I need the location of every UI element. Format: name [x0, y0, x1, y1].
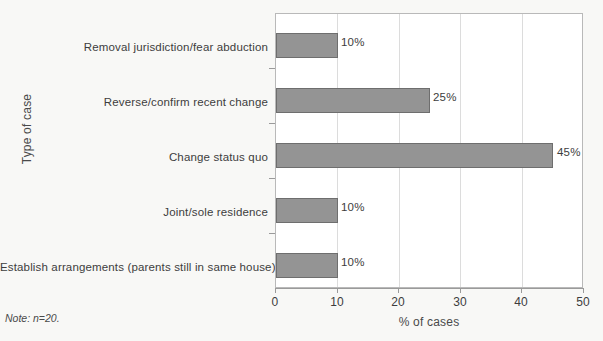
x-tick-10: [337, 288, 338, 293]
chart-figure: Type of case Removal jurisdiction/fear a…: [0, 0, 603, 341]
x-tick-20: [398, 288, 399, 293]
category-label-group: Removal jurisdiction/fear abduction Reve…: [0, 13, 268, 288]
x-tick-label-10: 10: [317, 295, 357, 309]
x-axis-title: % of cases: [275, 315, 583, 329]
bar-2[interactable]: [276, 143, 553, 168]
bar-value-2: 45%: [557, 146, 581, 158]
chart-note: Note: n=20.: [5, 312, 60, 324]
x-tick-0: [275, 288, 276, 293]
category-label-3: Joint/sole residence: [0, 206, 268, 218]
bar-value-0: 10%: [341, 36, 365, 48]
category-label-4: Establish arrangements (parents still in…: [0, 261, 268, 273]
bar-0[interactable]: [276, 33, 338, 58]
category-label-2: Change status quo: [0, 151, 268, 163]
x-tick-30: [460, 288, 461, 293]
bar-1[interactable]: [276, 88, 430, 113]
category-label-0: Removal jurisdiction/fear abduction: [0, 41, 268, 53]
plot-area: [275, 13, 583, 288]
bar-4[interactable]: [276, 253, 338, 278]
category-label-1: Reverse/confirm recent change: [0, 96, 268, 108]
x-tick-label-20: 20: [378, 295, 418, 309]
bar-value-1: 25%: [433, 91, 457, 103]
y-tick-0: [269, 68, 275, 69]
x-axis-line: [275, 288, 584, 289]
x-tick-label-30: 30: [440, 295, 480, 309]
bar-value-3: 10%: [341, 201, 365, 213]
bar-3[interactable]: [276, 198, 338, 223]
y-tick-1: [269, 123, 275, 124]
x-tick-label-50: 50: [563, 295, 603, 309]
x-tick-40: [521, 288, 522, 293]
y-tick-2: [269, 178, 275, 179]
x-tick-label-40: 40: [501, 295, 541, 309]
x-tick-label-0: 0: [255, 295, 295, 309]
x-tick-50: [583, 288, 584, 293]
bar-value-4: 10%: [341, 256, 365, 268]
y-tick-3: [269, 233, 275, 234]
